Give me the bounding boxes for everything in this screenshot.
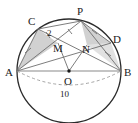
diameter-length-label-10: 10: [60, 89, 70, 99]
point-label-d: D: [113, 33, 121, 45]
point-label-a: A: [5, 66, 13, 78]
point-label-o: O: [64, 75, 72, 87]
point-label-m: M: [53, 42, 63, 54]
circle-diagram-svg: A B C P D M N O 2 10: [0, 0, 138, 123]
geometry-figure: A B C P D M N O 2 10: [0, 0, 138, 123]
point-label-b: B: [124, 66, 131, 78]
point-label-p: P: [77, 5, 83, 17]
center-point-o: [67, 69, 70, 72]
segment-length-label-2: 2: [47, 28, 52, 38]
point-label-c: C: [28, 15, 35, 27]
point-label-n: N: [82, 43, 90, 55]
